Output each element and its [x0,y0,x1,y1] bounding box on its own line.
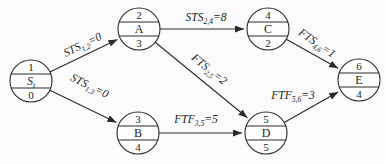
node-duration: 5 [263,141,269,153]
node-S: 1St0 [10,60,52,102]
network-diagram: STS1,2=0STS1,3=0STS2,4=8FTS2,5=2FTF3,5=5… [0,0,385,164]
edge-label-S-B: STS1,3=0 [67,71,110,102]
node-number: 5 [263,113,269,125]
edge-label-A-D: FTS2,5=2 [187,50,230,89]
node-name: B [134,126,142,140]
node-D: 5D5 [245,112,287,154]
node-C: 4C2 [247,8,289,50]
node-duration: 4 [356,88,362,100]
node-duration: 0 [28,89,34,101]
edge-label-B-D: FTF3,5=5 [173,113,218,128]
edge-label-D-E: FTF5,6=3 [270,89,315,104]
diagram-canvas: STS1,2=0STS1,3=0STS2,4=8FTS2,5=2FTF3,5=5… [0,0,385,164]
node-number: 1 [28,61,34,73]
node-duration: 2 [265,37,271,49]
node-number: 3 [135,113,141,125]
node-name: E [355,73,362,87]
node-B: 3B4 [117,112,159,154]
node-E: 6E4 [338,59,380,101]
node-number: 4 [265,9,271,21]
node-duration: 4 [135,141,141,153]
node-name: A [135,22,144,36]
node-A: 2A3 [118,8,160,50]
node-number: 2 [136,9,142,21]
node-number: 6 [356,60,362,72]
edge-label-C-E: FTS4,6=1 [294,25,338,62]
node-duration: 3 [136,37,142,49]
node-name: C [264,22,272,36]
edge-label-A-C: STS2,4=8 [186,11,227,26]
node-name: D [262,126,271,140]
edge-label-S-A: STS1,2=0 [61,30,104,61]
